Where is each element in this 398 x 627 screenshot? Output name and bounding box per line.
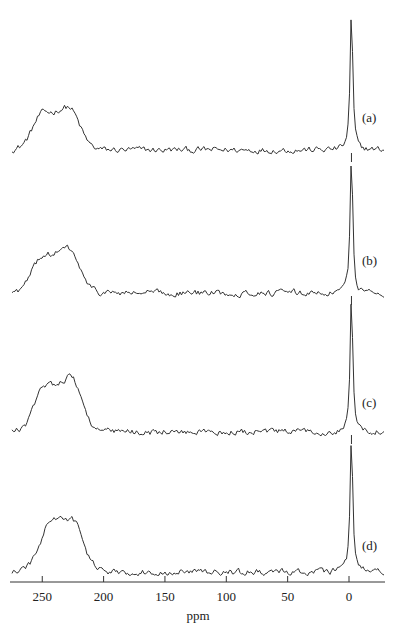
panel-label-d: (d) bbox=[362, 538, 377, 553]
spectra-traces bbox=[12, 20, 384, 576]
panel-label-b: (b) bbox=[362, 253, 377, 268]
nmr-spectra-chart: (a) (b) (c) (d) 250200150100500 ppm bbox=[0, 0, 398, 627]
x-axis: 250200150100500 ppm bbox=[10, 576, 385, 623]
x-tick-label: 100 bbox=[217, 589, 237, 604]
panel-label-c: (c) bbox=[362, 395, 376, 410]
panel-label-a: (a) bbox=[362, 110, 376, 125]
spectrum-trace-c bbox=[12, 304, 384, 436]
x-tick-label: 200 bbox=[94, 589, 114, 604]
x-tick-label: 0 bbox=[346, 589, 353, 604]
panel-labels: (a) (b) (c) (d) bbox=[362, 110, 377, 553]
spectrum-trace-a bbox=[12, 20, 384, 154]
spectrum-trace-d bbox=[12, 446, 384, 576]
spectrum-trace-b bbox=[12, 166, 384, 298]
x-tick-label: 50 bbox=[281, 589, 294, 604]
x-tick-label: 250 bbox=[33, 589, 53, 604]
x-axis-ticks: 250200150100500 bbox=[33, 576, 353, 604]
x-axis-label: ppm bbox=[186, 608, 209, 623]
x-tick-label: 150 bbox=[155, 589, 175, 604]
